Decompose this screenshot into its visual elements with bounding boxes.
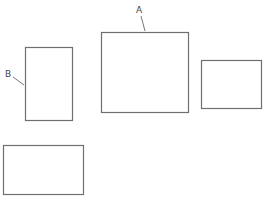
box-bottom-left bbox=[4, 146, 84, 195]
box-b bbox=[26, 48, 73, 121]
diagram-canvas: A B bbox=[0, 0, 264, 202]
leader-line-b bbox=[13, 77, 24, 85]
label-a: A bbox=[136, 5, 143, 15]
leader-line-a bbox=[141, 16, 145, 31]
box-a bbox=[102, 33, 189, 113]
box-right bbox=[202, 61, 262, 109]
label-b: B bbox=[5, 69, 11, 79]
